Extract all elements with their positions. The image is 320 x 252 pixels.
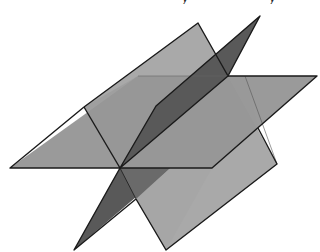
three-planes-diagram <box>0 0 320 252</box>
